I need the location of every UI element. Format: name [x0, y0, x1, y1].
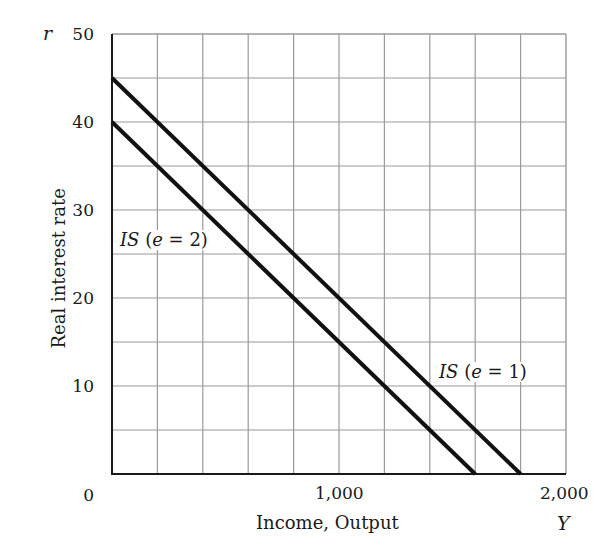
chart-canvas — [0, 0, 611, 558]
y-tick-10: 10 — [54, 378, 94, 395]
is-curves — [112, 78, 521, 474]
is-symbol: IS — [439, 361, 458, 382]
series-label-is-e2: IS (e = 2) — [118, 230, 210, 250]
x-tick-1000: 1,000 — [315, 485, 364, 502]
y-tick-40: 40 — [54, 114, 94, 131]
x-axis-symbol-y: Y — [557, 514, 570, 533]
grid-lines — [112, 34, 566, 474]
origin-tick-0: 0 — [54, 487, 94, 504]
y-tick-50: 50 — [54, 26, 94, 43]
e-symbol: e — [471, 361, 482, 382]
paren-open: ( — [139, 229, 152, 250]
value-text: = 2) — [163, 229, 208, 250]
series-label-is-e1: IS (e = 1) — [437, 362, 529, 382]
y-axis-symbol-r: r — [43, 24, 52, 43]
x-axis-title: Income, Output — [256, 514, 399, 532]
paren-open: ( — [458, 361, 471, 382]
e-symbol: e — [152, 229, 163, 250]
x-tick-2000: 2,000 — [540, 485, 589, 502]
value-text: = 1) — [482, 361, 527, 382]
y-axis-title: Real interest rate — [48, 189, 69, 349]
is-curve-line-1 — [112, 78, 521, 474]
is-symbol: IS — [120, 229, 139, 250]
